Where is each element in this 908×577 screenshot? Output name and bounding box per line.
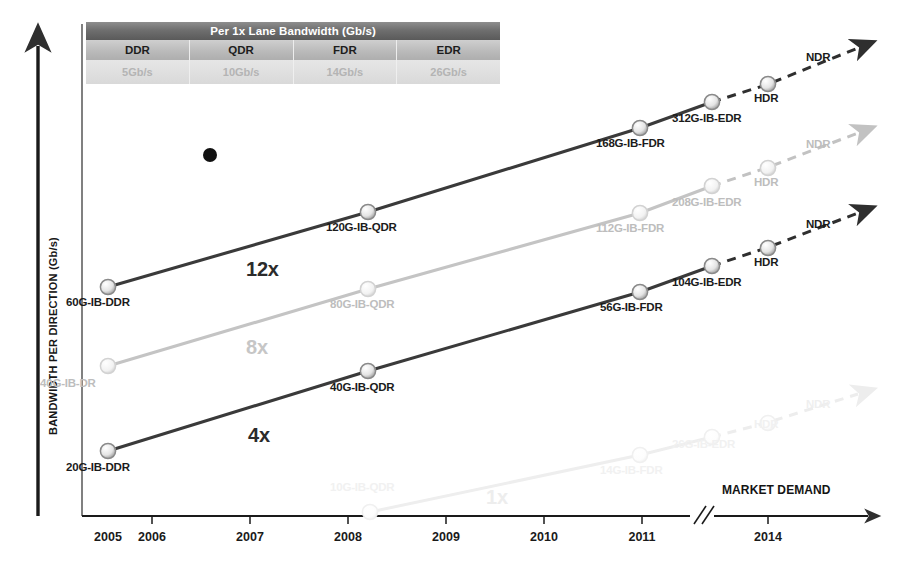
- label-series-12x: 12x: [246, 258, 279, 281]
- node-40g-ib-dr: [100, 358, 115, 373]
- per-lane-bandwidth-legend: Per 1x Lane Bandwidth (Gb/s) DDR QDR FDR…: [86, 22, 500, 84]
- node-112g-ib-fdr: [632, 205, 647, 220]
- label-hdr-4x: HDR: [754, 256, 778, 268]
- series-1x-dashed-line: [712, 394, 858, 437]
- node-120g-ib-qdr: [360, 204, 375, 219]
- label-hdr-12x: HDR: [754, 92, 778, 104]
- x-tick-label-2009: 2009: [432, 530, 460, 544]
- x-tick-label-2007: 2007: [236, 530, 264, 544]
- label-56g-ib-fdr: 56G-IB-FDR: [600, 301, 663, 313]
- label-series-4x: 4x: [248, 424, 270, 447]
- label-104g-ib-edr: 104G-IB-EDR: [672, 276, 741, 288]
- label-26g-ib-edr: 26G-IB-EDR: [672, 438, 735, 450]
- series-8x-dashed-line: [712, 133, 858, 186]
- legend-generation-qdr: QDR: [190, 40, 294, 60]
- node-56g-ib-fdr: [632, 284, 647, 299]
- label-168g-ib-fdr: 168G-IB-FDR: [596, 137, 665, 149]
- x-tick-label-2008: 2008: [334, 530, 362, 544]
- label-ndr-4x: NDR: [806, 218, 830, 230]
- node-14g-ib-fdr: [632, 447, 647, 462]
- x-tick-label-2005: 2005: [94, 530, 122, 544]
- node-168g-ib-fdr: [632, 120, 647, 135]
- label-hdr-1x: HDR: [754, 418, 778, 430]
- x-tick-label-2010: 2010: [530, 530, 558, 544]
- x-tick-label-2006: 2006: [138, 530, 166, 544]
- node-20g-ib-ddr: [100, 443, 115, 458]
- series-1x: [362, 394, 858, 520]
- x-axis-ticks: [152, 516, 768, 524]
- series-4x-dashed-line: [712, 213, 858, 266]
- label-series-8x: 8x: [246, 336, 268, 359]
- node-208g-ib-edr: [704, 178, 719, 193]
- legend-generation-ddr: DDR: [86, 40, 190, 60]
- label-80g-ib-qdr: 80G-IB-QDR: [330, 298, 394, 310]
- label-40g-ib-dr: 40G-IB-DR: [40, 377, 96, 389]
- x-tick-label-2014: 2014: [754, 530, 782, 544]
- stray-dot-marker: [203, 148, 217, 162]
- label-ndr-1x: NDR: [806, 398, 830, 410]
- label-60g-ib-ddr: 60G-IB-DDR: [66, 296, 130, 308]
- node-40g-ib-qdr: [360, 363, 375, 378]
- series-12x-solid-line: [108, 102, 712, 287]
- legend-generation-row: DDR QDR FDR EDR: [86, 40, 500, 60]
- y-axis-title: BANDWIDTH PER DIRECTION (Gb/s): [47, 186, 59, 486]
- x-tick-label-2011: 2011: [628, 530, 655, 544]
- x-axis-break-icon: [694, 506, 714, 524]
- series-8x-solid-line: [108, 186, 712, 366]
- label-series-1x: 1x: [486, 486, 508, 509]
- label-312g-ib-edr: 312G-IB-EDR: [672, 112, 741, 124]
- series-4x-solid-line: [108, 266, 712, 451]
- node-60g-ib-ddr: [100, 279, 115, 294]
- market-demand-label: MARKET DEMAND: [722, 483, 831, 497]
- legend-rate-edr: 26Gb/s: [397, 60, 500, 84]
- node-hdr-8x: [760, 160, 775, 175]
- legend-rate-qdr: 10Gb/s: [190, 60, 294, 84]
- label-ndr-8x: NDR: [806, 138, 830, 150]
- node-10g-ib-qdr: [362, 504, 377, 519]
- infiniband-roadmap-chart: Per 1x Lane Bandwidth (Gb/s) DDR QDR FDR…: [0, 0, 908, 577]
- label-208g-ib-edr: 208G-IB-EDR: [672, 196, 741, 208]
- node-hdr-12x: [760, 76, 775, 91]
- label-14g-ib-fdr: 14G-IB-FDR: [600, 464, 663, 476]
- node-hdr-4x: [760, 240, 775, 255]
- legend-rate-ddr: 5Gb/s: [86, 60, 190, 84]
- node-312g-ib-edr: [704, 94, 719, 109]
- label-20g-ib-ddr: 20G-IB-DDR: [66, 461, 130, 473]
- legend-generation-fdr: FDR: [294, 40, 398, 60]
- label-10g-ib-qdr: 10G-IB-QDR: [330, 481, 394, 493]
- node-104g-ib-edr: [704, 258, 719, 273]
- legend-rate-fdr: 14Gb/s: [294, 60, 398, 84]
- legend-rate-row: 5Gb/s 10Gb/s 14Gb/s 26Gb/s: [86, 60, 500, 84]
- node-80g-ib-qdr: [360, 281, 375, 296]
- series-12x-dashed-line: [712, 48, 858, 102]
- x-axis: [82, 506, 868, 524]
- label-120g-ib-qdr: 120G-IB-QDR: [326, 221, 397, 233]
- legend-generation-edr: EDR: [397, 40, 500, 60]
- label-40g-ib-qdr: 40G-IB-QDR: [330, 381, 394, 393]
- label-hdr-8x: HDR: [754, 176, 778, 188]
- label-ndr-12x: NDR: [806, 51, 830, 63]
- legend-title: Per 1x Lane Bandwidth (Gb/s): [86, 22, 500, 40]
- label-112g-ib-fdr: 112G-IB-FDR: [596, 222, 664, 234]
